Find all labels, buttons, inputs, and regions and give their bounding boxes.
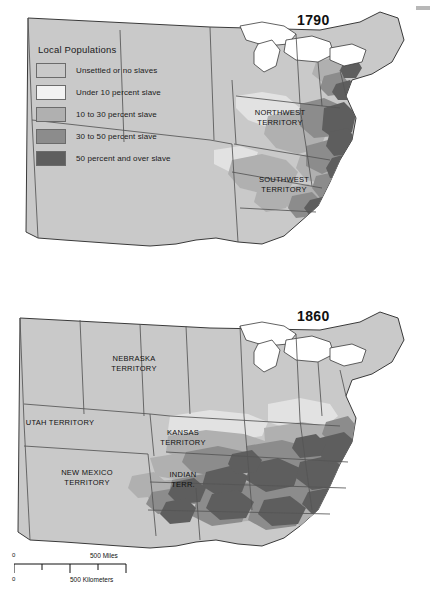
legend-item-under-10: Under 10 percent slave [36,84,214,101]
legend-label-50-over: 50 percent and over slave [76,154,171,163]
year-label-1860: 1860 [297,308,330,324]
map-panel-1860: 1860 NEBRASKA TERRITORY UTAH TERRITORY K… [0,296,433,554]
scale-bar: 0 500 Miles 0 500 Kilometers [12,552,142,586]
label-nebraska-territory: NEBRASKA TERRITORY [95,354,173,373]
corner-artifact [416,6,430,10]
legend: Local Populations Unsettled or no slaves… [36,44,214,172]
year-label-1790: 1790 [297,12,330,28]
label-kansas-territory: KANSAS TERRITORY [150,428,216,447]
label-southwest-territory: SOUTHWEST TERRITORY [247,175,321,194]
legend-label-under-10: Under 10 percent slave [76,88,161,97]
legend-swatch-unsettled [36,63,66,78]
legend-item-10-30: 10 to 30 percent slave [36,106,214,123]
scale-km-zero: 0 [12,576,15,582]
scale-miles-label: 500 Miles [90,552,118,559]
legend-label-10-30: 10 to 30 percent slave [76,110,157,119]
scale-miles-zero: 0 [12,552,15,558]
legend-swatch-10-30 [36,107,66,122]
legend-item-30-50: 30 to 50 percent slave [36,128,214,145]
scale-km-label: 500 Kilometers [70,576,113,583]
label-indian-territory: INDIAN TERR. [160,470,206,489]
label-utah-territory: UTAH TERRITORY [12,418,108,428]
legend-swatch-50-over [36,151,66,166]
map-panel-1790: 1790 Local Populations Unsettled or no s… [0,0,433,292]
legend-item-unsettled: Unsettled or no slaves [36,62,214,79]
legend-label-unsettled: Unsettled or no slaves [76,66,157,75]
legend-swatch-30-50 [36,129,66,144]
label-northwest-territory: NORTHWEST TERRITORY [243,108,317,127]
label-new-mexico-territory: NEW MEXICO TERRITORY [44,468,130,487]
legend-item-50-over: 50 percent and over slave [36,150,214,167]
legend-swatch-under-10 [36,85,66,100]
legend-title: Local Populations [38,44,214,55]
legend-label-30-50: 30 to 50 percent slave [76,132,157,141]
